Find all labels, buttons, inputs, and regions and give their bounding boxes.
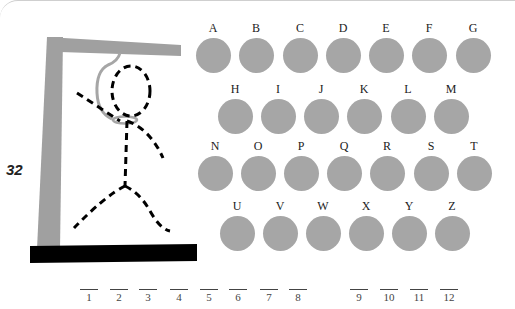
letter-disc[interactable]	[263, 216, 298, 251]
letter-label: A	[193, 20, 233, 36]
letter-label: F	[409, 20, 449, 36]
letter-disc[interactable]	[412, 38, 447, 73]
letter-disc[interactable]	[218, 99, 253, 134]
letter-label: N	[195, 138, 235, 154]
letter-label: V	[260, 198, 300, 214]
answer-blank-11: 11	[410, 289, 428, 303]
letter-button-l[interactable]: L	[388, 81, 428, 134]
figure-right-leg	[125, 186, 170, 231]
letter-label: L	[388, 81, 428, 97]
letter-label: Q	[324, 138, 364, 154]
letter-button-a[interactable]: A	[193, 20, 233, 73]
letter-button-r[interactable]: R	[367, 138, 407, 191]
letter-label: O	[238, 138, 278, 154]
figure-head	[112, 66, 150, 116]
letter-button-i[interactable]: I	[258, 81, 298, 134]
letter-disc[interactable]	[239, 38, 274, 73]
gallows-illustration	[0, 1, 200, 271]
letter-button-t[interactable]: T	[454, 138, 494, 191]
answer-blank-4: 4	[170, 289, 188, 303]
letter-button-q[interactable]: Q	[324, 138, 364, 191]
figure-body	[125, 121, 127, 186]
letter-button-b[interactable]: B	[236, 20, 276, 73]
letter-disc[interactable]	[370, 156, 405, 191]
letter-disc[interactable]	[327, 156, 362, 191]
letter-disc[interactable]	[304, 99, 339, 134]
letter-button-s[interactable]: S	[411, 138, 451, 191]
letter-button-m[interactable]: M	[431, 81, 471, 134]
answer-blank-5: 5	[200, 289, 218, 303]
letter-disc[interactable]	[369, 38, 404, 73]
answer-blank-7: 7	[260, 289, 278, 303]
letter-button-p[interactable]: P	[281, 138, 321, 191]
letter-disc[interactable]	[349, 216, 384, 251]
letter-disc[interactable]	[392, 216, 427, 251]
letter-label: E	[366, 20, 406, 36]
letter-label: Y	[389, 198, 429, 214]
letter-disc[interactable]	[196, 38, 231, 73]
letter-label: Z	[432, 198, 472, 214]
letter-disc[interactable]	[198, 156, 233, 191]
letter-disc[interactable]	[457, 156, 492, 191]
answer-blank-12: 12	[440, 289, 458, 303]
letter-disc[interactable]	[220, 216, 255, 251]
letter-disc[interactable]	[241, 156, 276, 191]
answer-blank-6: 6	[229, 289, 247, 303]
answer-blank-10: 10	[380, 289, 398, 303]
letter-button-u[interactable]: U	[217, 198, 257, 251]
gallows-base	[30, 244, 197, 263]
gallows-beam	[47, 37, 181, 56]
letter-label: H	[215, 81, 255, 97]
letter-disc[interactable]	[261, 99, 296, 134]
letter-disc[interactable]	[391, 99, 426, 134]
letter-label: S	[411, 138, 451, 154]
letter-button-j[interactable]: J	[301, 81, 341, 134]
letter-button-f[interactable]: F	[409, 20, 449, 73]
answer-blank-3: 3	[139, 289, 157, 303]
letter-button-y[interactable]: Y	[389, 198, 429, 251]
letter-label: P	[281, 138, 321, 154]
letter-label: T	[454, 138, 494, 154]
figure-left-leg	[74, 186, 125, 228]
letter-button-v[interactable]: V	[260, 198, 300, 251]
letter-button-g[interactable]: G	[453, 20, 493, 73]
hangman-puzzle: 32 A B C D E F G H I J K L M N O P Q R S…	[0, 0, 515, 309]
letter-disc[interactable]	[283, 38, 318, 73]
letter-label: G	[453, 20, 493, 36]
letter-button-n[interactable]: N	[195, 138, 235, 191]
answer-blank-2: 2	[110, 289, 128, 303]
figure-right-arm	[127, 121, 163, 158]
letter-label: C	[280, 20, 320, 36]
answer-blank-8: 8	[289, 289, 307, 303]
letter-button-w[interactable]: W	[303, 198, 343, 251]
letter-button-k[interactable]: K	[344, 81, 384, 134]
letter-button-x[interactable]: X	[346, 198, 386, 251]
letter-label: U	[217, 198, 257, 214]
letter-disc[interactable]	[326, 38, 361, 73]
letter-label: M	[431, 81, 471, 97]
letter-disc[interactable]	[284, 156, 319, 191]
answer-blank-1: 1	[80, 289, 98, 303]
letter-label: I	[258, 81, 298, 97]
letter-disc[interactable]	[306, 216, 341, 251]
letter-button-c[interactable]: C	[280, 20, 320, 73]
letter-label: R	[367, 138, 407, 154]
letter-label: D	[323, 20, 363, 36]
gallows-post	[37, 37, 63, 249]
letter-label: W	[303, 198, 343, 214]
puzzle-number: 32	[6, 161, 23, 178]
letter-disc[interactable]	[456, 38, 491, 73]
letter-disc[interactable]	[414, 156, 449, 191]
letter-button-o[interactable]: O	[238, 138, 278, 191]
letter-button-h[interactable]: H	[215, 81, 255, 134]
letter-button-z[interactable]: Z	[432, 198, 472, 251]
letter-label: B	[236, 20, 276, 36]
letter-label: J	[301, 81, 341, 97]
letter-disc[interactable]	[435, 216, 470, 251]
letter-disc[interactable]	[347, 99, 382, 134]
letter-label: X	[346, 198, 386, 214]
answer-blank-9: 9	[350, 289, 368, 303]
letter-button-e[interactable]: E	[366, 20, 406, 73]
letter-button-d[interactable]: D	[323, 20, 363, 73]
letter-disc[interactable]	[434, 99, 469, 134]
